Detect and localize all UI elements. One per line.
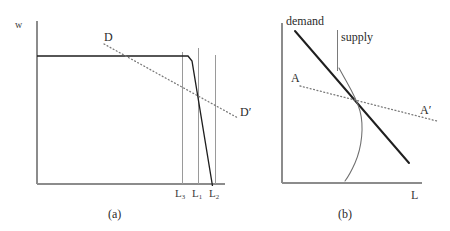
panel-a-curve-D-prime [104,44,238,118]
panel-b-label-A-prime: A′ [420,104,431,116]
panel-b-curve-demand [295,31,409,163]
panel-b-label-A: A [291,72,300,84]
panel-a-tick-L1-base: L [192,187,199,199]
panel-b-x-axis-label: L [411,189,418,201]
panel-a-label-D: D [104,31,113,43]
panel-a-tick-L3: L3 [175,188,185,200]
panel-a-y-axis-label: w [15,20,22,30]
panel-a-tick-L3-sub: 3 [182,193,185,200]
panel-a-graphic [37,21,238,186]
panel-b-graphic [282,23,437,183]
panel-a-curve-D [37,56,213,186]
figure-root: w D D′ L3 L1 L2 (a) demand supply A A′ L… [0,0,450,231]
figure-svg [0,0,450,231]
panel-b-label-demand: demand [286,15,324,27]
panel-a-tick-L3-base: L [175,187,182,199]
panel-b-caption: (b) [338,208,352,220]
panel-a-caption: (a) [108,208,121,220]
panel-a-tick-L2-sub: 2 [216,193,219,200]
panel-a-tick-L2-base: L [209,187,216,199]
panel-a-label-D-prime: D′ [240,106,251,118]
panel-b-label-supply: supply [341,31,373,43]
panel-a-tick-L2: L2 [209,188,219,200]
panel-a-tick-L1-sub: 1 [199,193,202,200]
panel-a-tick-L1: L1 [192,188,202,200]
